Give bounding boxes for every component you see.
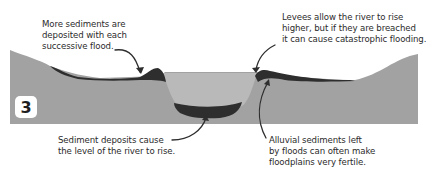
arrowhead-top-left — [136, 67, 144, 74]
annotation-sediment-deposits: Sediment deposits cause the level of the… — [58, 135, 175, 157]
annotation-levees: Levees allow the river to rise higher, b… — [282, 12, 426, 45]
annotation-alluvial-sediments: Alluvial sediments left by floods can of… — [269, 135, 375, 168]
annotation-more-sediments: More sediments are deposited with each s… — [42, 19, 127, 52]
arrow-top-left — [115, 50, 140, 72]
step-number-badge: 3 — [15, 96, 37, 118]
arrow-top-right — [256, 45, 275, 70]
